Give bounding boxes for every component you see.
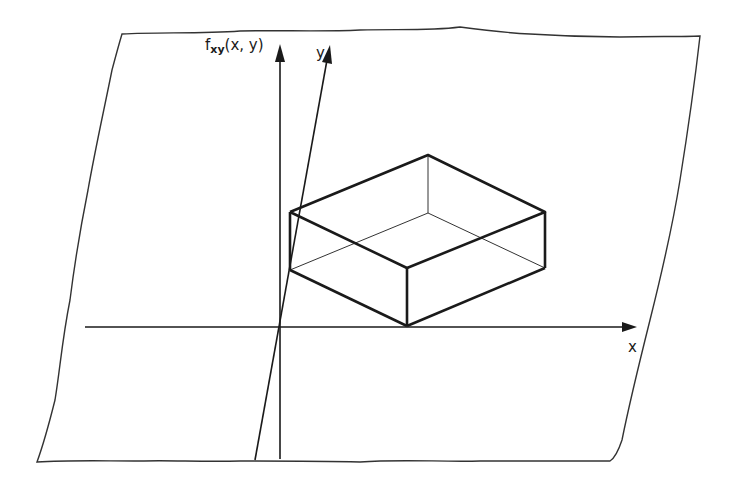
label-args: (x, y): [225, 36, 264, 54]
box-hidden-edges: [290, 155, 545, 270]
plane-frame: [37, 27, 700, 462]
label-subscript: xy: [210, 43, 224, 56]
box-visible-edges: [290, 155, 545, 326]
x-axis-label: x: [628, 340, 637, 355]
y-axis-label: y: [316, 46, 325, 61]
diagram-canvas: [0, 0, 737, 487]
axes: [85, 44, 637, 460]
x-axis-arrow-icon: [622, 322, 637, 332]
vertical-axis-label: fxy(x, y): [205, 38, 264, 55]
vertical-axis-arrow-icon: [275, 44, 285, 62]
